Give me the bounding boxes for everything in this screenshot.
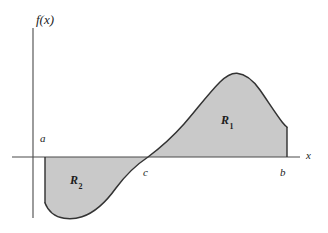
region-label-r1-letter: R xyxy=(221,113,229,127)
region-label-r2: R2 xyxy=(70,174,82,189)
point-label-b: b xyxy=(280,167,286,178)
region-label-r2-letter: R xyxy=(70,173,78,187)
region-label-r1: R1 xyxy=(221,114,233,129)
y-axis-label: f(x) xyxy=(36,13,54,26)
region-label-r1-subscript: 1 xyxy=(230,122,234,131)
point-label-a: a xyxy=(40,133,46,144)
function-graph-svg xyxy=(0,0,328,233)
point-label-c: c xyxy=(143,167,148,178)
region-r1-fill xyxy=(148,73,287,157)
x-axis-label: x xyxy=(306,150,311,161)
region-label-r2-subscript: 2 xyxy=(79,182,83,191)
figure-container: f(x) x a c b R1 R2 xyxy=(0,0,328,233)
